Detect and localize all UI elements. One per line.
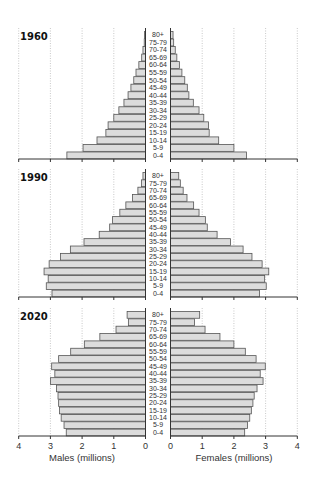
age-group-label: 5-9 (153, 421, 163, 428)
female-bar (171, 407, 252, 414)
age-group-label: 5-9 (153, 144, 163, 151)
male-bar (56, 385, 145, 392)
pyramid-panels: 19600-45-910-1415-1920-2425-2930-3435-39… (16, 28, 300, 451)
male-bar (126, 202, 146, 209)
age-group-label: 0-4 (153, 290, 163, 297)
age-group-label: 40-44 (149, 231, 167, 238)
year-label: 1960 (20, 31, 48, 42)
age-group-label: 10-14 (149, 137, 167, 144)
age-group-label: 60-64 (149, 341, 167, 348)
male-bar (119, 107, 146, 114)
female-bar (171, 144, 234, 151)
age-group-label: 75-79 (149, 319, 167, 326)
age-group-label: 80+ (152, 31, 164, 38)
male-bar (58, 392, 145, 399)
male-bar (106, 129, 146, 136)
male-bar (70, 246, 145, 253)
age-group-label: 25-29 (149, 253, 167, 260)
male-bar (113, 217, 146, 224)
female-bar (171, 261, 263, 268)
age-group-label: 35-39 (149, 238, 167, 245)
age-group-label: 80+ (152, 172, 164, 179)
male-bar (139, 62, 146, 69)
age-group-label: 0-4 (153, 429, 163, 436)
pyramid-2020: 20200-45-910-1415-1920-2425-2930-3435-39… (16, 308, 300, 451)
male-bar (131, 84, 146, 91)
age-group-label: 15-19 (149, 268, 167, 275)
male-bar (66, 429, 145, 436)
age-group-label: 0-4 (153, 152, 163, 159)
female-bar (171, 326, 206, 333)
male-bar (108, 122, 145, 129)
female-bar (171, 312, 200, 319)
male-bar (133, 195, 146, 202)
age-group-label: 50-54 (149, 355, 167, 362)
age-group-label: 30-34 (149, 385, 167, 392)
male-bar (128, 319, 145, 326)
female-tick-label: 0 (168, 441, 173, 451)
male-bar (48, 275, 145, 282)
age-group-label: 70-74 (149, 46, 167, 53)
female-bar (171, 92, 189, 99)
female-bar (171, 152, 247, 159)
male-bar (141, 180, 145, 187)
female-bar (171, 283, 267, 290)
male-tick-label: 2 (80, 441, 85, 451)
males-axis-title: Males (millions) (49, 452, 115, 463)
male-bar (71, 348, 146, 355)
female-tick-label: 3 (263, 441, 268, 451)
male-bar (61, 414, 145, 421)
female-bar (171, 246, 244, 253)
age-group-label: 40-44 (149, 370, 167, 377)
female-bar (171, 47, 176, 54)
female-bar (171, 54, 177, 61)
female-bar (171, 114, 204, 121)
male-bar (84, 341, 145, 348)
female-bar (171, 414, 250, 421)
female-bar (171, 224, 208, 231)
male-bar (142, 54, 146, 61)
male-tick-label: 1 (111, 441, 116, 451)
age-group-label: 20-24 (149, 260, 167, 267)
male-bar (52, 363, 146, 370)
female-tick-label: 2 (231, 441, 236, 451)
female-bar (171, 378, 264, 385)
female-bar (171, 356, 257, 363)
population-pyramid-chart: 19600-45-910-1415-1920-2425-2930-3435-39… (0, 0, 315, 483)
female-bar (171, 173, 179, 180)
male-bar (61, 253, 146, 260)
age-group-label: 75-79 (149, 180, 167, 187)
female-bar (171, 341, 234, 348)
bottom-axis: Males (millions) Females (millions) (49, 452, 273, 463)
age-group-label: 70-74 (149, 326, 167, 333)
age-group-label: 30-34 (149, 107, 167, 114)
male-bar (100, 334, 146, 341)
age-group-label: 10-14 (149, 275, 167, 282)
male-bar (49, 261, 145, 268)
male-bar (59, 400, 146, 407)
age-group-label: 35-39 (149, 377, 167, 384)
female-bar (171, 77, 185, 84)
age-group-label: 20-24 (149, 122, 167, 129)
female-bar (171, 137, 219, 144)
male-bar (114, 114, 146, 121)
female-bar (171, 84, 188, 91)
male-bar (127, 312, 145, 319)
female-bar (171, 334, 220, 341)
female-bar (171, 180, 181, 187)
female-bar (171, 202, 194, 209)
male-bar (84, 239, 145, 246)
female-bar (171, 422, 248, 429)
female-bar (171, 209, 200, 216)
age-group-label: 45-49 (149, 84, 167, 91)
age-group-label: 15-19 (149, 407, 167, 414)
male-bar (128, 92, 145, 99)
male-bar (52, 290, 146, 297)
male-bar (120, 209, 146, 216)
male-bar (136, 69, 146, 76)
male-bar (110, 224, 146, 231)
female-bar (171, 231, 218, 238)
female-bar (171, 217, 206, 224)
female-bar (171, 239, 231, 246)
male-bar (59, 356, 146, 363)
